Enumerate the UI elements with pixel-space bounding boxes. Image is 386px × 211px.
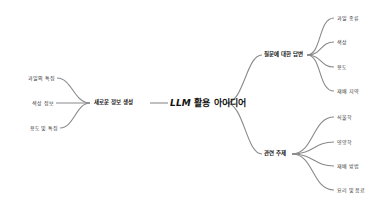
root-node: LLM활용 아이디어 — [170, 99, 247, 108]
leaf-use-features: 용도 및 특징 — [30, 126, 58, 131]
leaf-cooking-drinks: 요리 및 음료 — [337, 188, 365, 193]
leaf-botany: 식물학 — [337, 115, 352, 120]
branch-new-info: 새로운 정보 생성 — [94, 100, 133, 106]
leaf-color: 색상 — [337, 40, 347, 45]
leaf-color-info: 색상 정보 — [32, 101, 54, 106]
leaf-cultivation: 재배 방법 — [337, 164, 359, 169]
leaf-nutrition: 영양학 — [337, 140, 352, 145]
branch-answers: 질문에 대한 답변 — [264, 52, 303, 58]
leaf-fruit-types: 과일 종류 — [337, 16, 359, 21]
leaf-growing-region: 재배 지역 — [337, 89, 359, 94]
root-prefix: LLM — [170, 98, 191, 108]
leaf-use: 용도 — [337, 65, 347, 70]
branch-related-topics: 관련 주제 — [264, 151, 286, 157]
root-label: 활용 아이디어 — [194, 98, 247, 108]
leaf-fruit-features: 과일의 특징 — [28, 76, 55, 81]
